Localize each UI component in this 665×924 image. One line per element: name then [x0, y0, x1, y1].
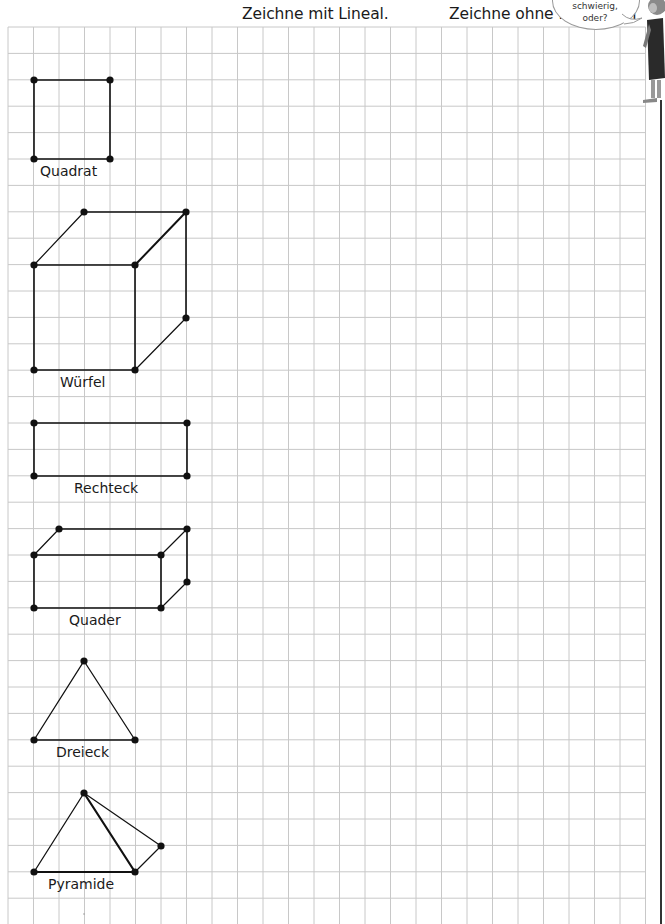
speech-bubble-text: schwierig, oder? — [552, 0, 638, 24]
triangle-shape — [34, 661, 135, 740]
speech-line-1: schwierig, — [552, 0, 638, 12]
heading-draw-with-ruler: Zeichne mit Lineal. — [242, 5, 389, 23]
speech-line-2: oder? — [552, 12, 638, 24]
rectangle-shape — [34, 423, 187, 476]
label-dreieck: Dreieck — [56, 744, 109, 760]
cube-shape — [34, 212, 186, 370]
pyramid-shape — [34, 793, 161, 872]
page-edge-line — [660, 100, 662, 924]
label-wuerfel: Würfel — [60, 374, 105, 390]
cuboid-shape — [34, 529, 187, 608]
label-quadrat: Quadrat — [40, 163, 97, 179]
label-pyramide: Pyramide — [48, 876, 114, 892]
mouse-character-illustration — [637, 0, 665, 110]
label-rechteck: Rechteck — [74, 480, 138, 496]
label-quader: Quader — [69, 612, 121, 628]
square-shape — [34, 80, 110, 159]
